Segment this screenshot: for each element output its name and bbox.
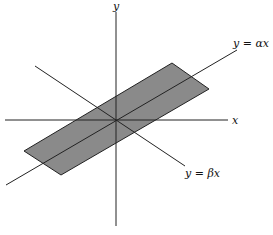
beta-line-label: y = βx — [184, 167, 221, 180]
y-axis-label: y — [112, 0, 120, 13]
x-axis-label: x — [232, 114, 239, 127]
alpha-line-label: y = αx — [232, 37, 270, 50]
diagram-canvas: y x y = αx y = βx — [0, 0, 273, 235]
